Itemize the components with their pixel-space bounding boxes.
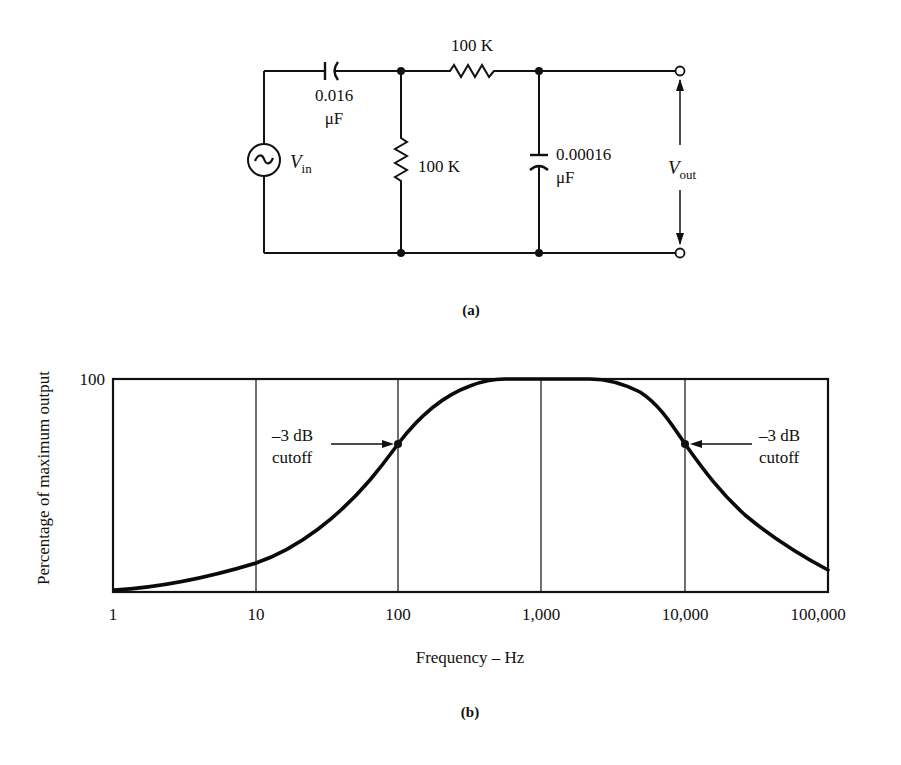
figure-canvas: Vin 0.016 μF 100 K 100 K 0.00016 μF xyxy=(0,0,901,765)
x-tick-100000: 100,000 xyxy=(790,605,845,624)
circuit-diagram: Vin 0.016 μF 100 K 100 K 0.00016 μF xyxy=(248,36,697,319)
caption-b: (b) xyxy=(461,704,479,721)
x-axis-label: Frequency – Hz xyxy=(416,648,525,667)
vin-label: Vin xyxy=(290,151,312,176)
x-tick-1: 1 xyxy=(109,605,118,624)
shunt-resistor-value: 100 K xyxy=(418,157,461,176)
x-tick-10: 10 xyxy=(248,605,265,624)
shunt-capacitor-unit: μF xyxy=(556,168,575,187)
annotation-low-line1: –3 dB xyxy=(271,426,313,445)
annotation-arrow-right-icon xyxy=(331,440,394,448)
ac-source-icon xyxy=(248,144,280,176)
y-tick-100: 100 xyxy=(80,370,106,389)
x-tick-10000: 10,000 xyxy=(662,605,709,624)
x-tick-100: 100 xyxy=(385,605,411,624)
shunt-resistor-icon xyxy=(395,71,407,253)
annotation-high-line1: –3 dB xyxy=(758,426,800,445)
series-capacitor-value: 0.016 xyxy=(315,86,353,105)
shunt-capacitor-value: 0.00016 xyxy=(556,145,611,164)
y-axis-label: Percentage of maximum output xyxy=(34,371,53,585)
caption-a: (a) xyxy=(462,302,480,319)
output-terminal-icon xyxy=(676,67,685,76)
output-terminal-icon xyxy=(676,249,685,258)
frequency-response-chart: Percentage of maximum output 100 –3 dB c… xyxy=(34,370,846,721)
annotation-low-line2: cutoff xyxy=(272,448,313,467)
annotation-high-line2: cutoff xyxy=(759,448,800,467)
series-capacitor-unit: μF xyxy=(325,109,344,128)
series-resistor-icon xyxy=(401,65,539,77)
vout-label: Vout xyxy=(668,157,697,182)
annotation-arrow-left-icon xyxy=(690,440,752,448)
cutoff-point-high xyxy=(681,440,689,448)
cutoff-point-low xyxy=(394,440,402,448)
series-resistor-value: 100 K xyxy=(451,36,494,55)
plot-frame xyxy=(113,379,828,592)
response-curve xyxy=(114,379,828,590)
x-tick-1000: 1,000 xyxy=(522,605,560,624)
